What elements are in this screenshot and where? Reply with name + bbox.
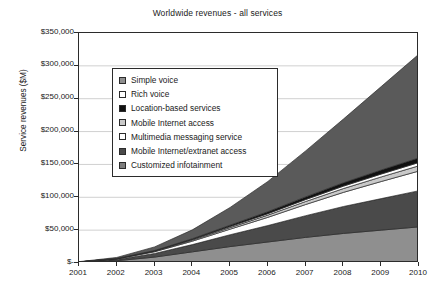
legend-item-label: Rich voice (131, 90, 169, 98)
x-axis-tick-mark (418, 262, 419, 266)
legend-swatch-icon (119, 91, 126, 98)
legend-swatch-icon (119, 162, 126, 169)
legend-item: Rich voice (119, 87, 277, 101)
x-axis-tick-label: 2010 (396, 268, 435, 277)
legend-item-label: Customized infotainment (131, 161, 222, 169)
legend-swatch-icon (119, 119, 126, 126)
legend-swatch-icon (119, 77, 126, 84)
legend-item-label: Mobile Internet/extranet access (131, 147, 246, 155)
legend-swatch-icon (119, 133, 126, 140)
legend-item: Multimedia messaging service (119, 130, 277, 144)
x-axis-tick-mark (267, 262, 268, 266)
x-axis-tick-mark (342, 262, 343, 266)
legend-item: Mobile Internet access (119, 116, 277, 130)
legend-item: Location-based services (119, 101, 277, 115)
legend-item: Mobile Internet/extranet access (119, 144, 277, 158)
x-axis-tick-mark (380, 262, 381, 266)
x-axis-tick-mark (229, 262, 230, 266)
chart-container: Worldwide revenues - all services Servic… (0, 0, 435, 298)
legend-item-label: Simple voice (131, 76, 178, 84)
legend-item: Simple voice (119, 73, 277, 87)
x-axis-tick-mark (191, 262, 192, 266)
x-axis-tick-mark (154, 262, 155, 266)
x-axis-tick-mark (116, 262, 117, 266)
legend-item-label: Multimedia messaging service (131, 133, 242, 141)
legend-item-label: Location-based services (131, 104, 220, 112)
x-axis-tick-mark (78, 262, 79, 266)
legend-item: Customized infotainment (119, 158, 277, 172)
legend-swatch-icon (119, 105, 126, 112)
legend-item-label: Mobile Internet access (131, 119, 214, 127)
chart-legend: Simple voice Rich voice Location-based s… (112, 68, 278, 177)
x-axis-tick-mark (305, 262, 306, 266)
legend-swatch-icon (119, 148, 126, 155)
